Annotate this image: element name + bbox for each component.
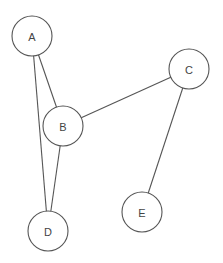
- edge-b-c: [63, 69, 189, 126]
- node-label: B: [59, 121, 66, 133]
- graph-diagram: ABCDE: [0, 0, 223, 263]
- node-c: C: [169, 49, 209, 89]
- node-label: E: [138, 207, 145, 219]
- node-d: D: [28, 211, 68, 251]
- node-b: B: [43, 106, 83, 146]
- node-a: A: [12, 16, 52, 56]
- node-e: E: [122, 192, 162, 232]
- edge-c-e: [142, 69, 189, 212]
- node-label: C: [185, 64, 193, 76]
- node-label: A: [28, 31, 36, 43]
- node-label: D: [44, 226, 52, 238]
